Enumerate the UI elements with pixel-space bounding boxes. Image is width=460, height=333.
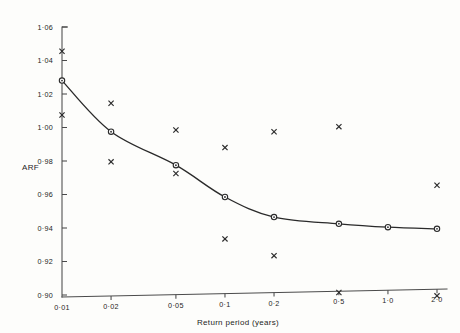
data-point-center [387,226,389,228]
data-point-center [338,223,340,225]
data-point-center [110,131,112,133]
x-tick-label: 0·1 [219,300,230,309]
data-point-center [61,80,63,82]
data-point-cross [173,171,178,176]
chart-figure: 0·900·920·940·960·981·001·021·041·06 0·0… [0,0,460,333]
y-tick-label: 0·96 [37,190,53,199]
data-point-cross [108,101,113,106]
data-markers [59,49,439,299]
data-point-cross [336,124,341,129]
series-upper-scatter [59,49,439,188]
y-tick-label: 0·98 [37,157,53,166]
axes-group [62,27,447,300]
y-tick-label: 0·90 [37,291,53,300]
x-tick-label: 0·05 [168,301,184,310]
data-point-center [436,228,438,230]
y-tick-label: 1·00 [37,123,53,132]
y-tick-label: 1·06 [37,23,53,32]
y-tick-label: 0·92 [37,257,53,266]
y-axis-title: ARF [22,163,39,172]
y-tick-label: 1·02 [37,90,53,99]
data-point-cross [271,129,276,134]
data-point-cross [173,127,178,132]
y-axis-tick-labels: 0·900·920·940·960·981·001·021·041·06 [37,23,53,300]
y-axis-ticks [62,27,68,295]
y-tick-label: 0·94 [37,224,53,233]
data-point-cross [222,236,227,241]
x-tick-label: 0·2 [268,299,279,308]
data-point-cross [271,253,276,258]
data-point-center [224,196,226,198]
x-tick-label: 0·5 [333,297,344,306]
data-point-cross [222,145,227,150]
data-point-center [273,216,275,218]
y-tick-label: 1·04 [37,56,53,65]
x-tick-label: 1·0 [382,296,393,305]
chart-canvas: 0·900·920·940·960·981·001·021·041·06 0·0… [0,0,460,333]
series-lower-scatter [59,112,439,298]
data-point-center [175,164,177,166]
x-axis-tick-labels: 0·010·020·050·10·20·51·02·0 [54,295,442,312]
fitted-curve [62,81,437,229]
x-tick-label: 0·01 [54,303,70,312]
x-tick-label: 0·02 [103,302,119,311]
data-point-cross [108,159,113,164]
data-point-cross [434,183,439,188]
x-axis-title: Return period (years) [197,318,279,327]
